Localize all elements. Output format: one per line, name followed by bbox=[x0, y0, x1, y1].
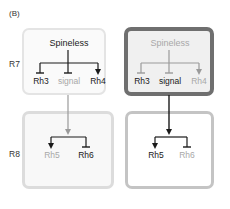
r7-right-spineless: Spineless bbox=[150, 38, 189, 48]
r8-left-rh6: Rh6 bbox=[78, 150, 94, 160]
r7-right-rh4: Rh4 bbox=[191, 76, 207, 86]
r8-left-rh5: Rh5 bbox=[44, 150, 60, 160]
r8-right-rh6: Rh6 bbox=[179, 150, 195, 160]
regulatory-network-edges bbox=[0, 0, 230, 209]
r7-right-edges bbox=[137, 50, 202, 75]
r7-right-rh3: Rh3 bbox=[134, 76, 150, 86]
r7-right-signal: signal bbox=[159, 76, 181, 86]
arrowhead-rh4 bbox=[95, 69, 101, 75]
r7-left-signal: signal bbox=[58, 76, 80, 86]
r8-right-rh5: Rh5 bbox=[148, 150, 164, 160]
r7-left-edges bbox=[36, 50, 101, 75]
r7-left-rh4: Rh4 bbox=[90, 76, 106, 86]
r7-left-spineless: Spineless bbox=[49, 38, 88, 48]
r8-left-edges bbox=[48, 137, 90, 149]
r7-left-rh3: Rh3 bbox=[33, 76, 49, 86]
r8-right-edges bbox=[152, 137, 191, 149]
